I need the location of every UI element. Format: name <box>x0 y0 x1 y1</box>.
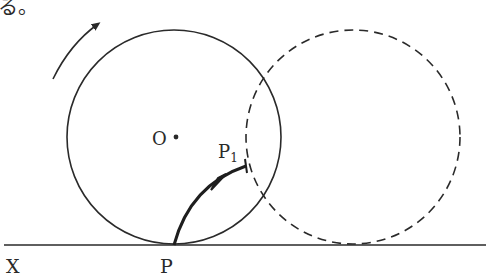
end-point-label-sub: 1 <box>230 151 238 165</box>
rolling-circle-diagram: る。 O P1 X P <box>0 0 486 279</box>
end-point-label-base: P <box>218 141 230 162</box>
center-dot <box>174 135 179 140</box>
end-point-label: P1 <box>218 141 238 165</box>
point-path-arc <box>174 166 246 245</box>
header-fragment: る。 <box>0 0 38 19</box>
center-label: O <box>152 128 167 149</box>
p1-tick <box>245 159 247 173</box>
line-label: X <box>6 255 20 277</box>
rotation-arrow-icon <box>53 24 98 79</box>
start-point-label: P <box>160 255 173 277</box>
moved-circle <box>246 30 460 244</box>
